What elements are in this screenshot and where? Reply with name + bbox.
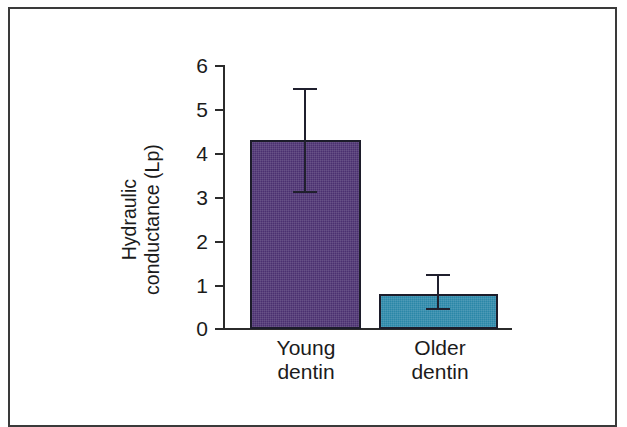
- y-tick-label-3: 3: [182, 187, 208, 208]
- y-tick-label-wrap-0: 0: [178, 318, 208, 319]
- y-tick-label-wrap-4: 4: [178, 143, 208, 144]
- y-tick-0: [215, 328, 224, 330]
- y-tick-label-wrap-5: 5: [178, 99, 208, 100]
- error-bar-cap-top-older-dentin: [426, 274, 450, 276]
- category-label-young-dentin: Young dentin: [238, 336, 374, 383]
- error-bar-cap-bottom-young-dentin: [293, 191, 317, 193]
- error-bar-stem-young-dentin: [304, 88, 306, 193]
- figure-frame: 6 5 4 3 2 1 0 Hydraulic conductance (Lp): [8, 7, 617, 427]
- y-tick-label-0: 0: [182, 318, 208, 339]
- y-tick-label-6: 6: [182, 55, 208, 76]
- y-tick-5: [215, 109, 224, 111]
- y-tick-label-wrap-2: 2: [178, 231, 208, 232]
- error-bar-cap-top-young-dentin: [293, 88, 317, 90]
- category-label-older-dentin: Older dentin: [372, 336, 508, 383]
- y-tick-2: [215, 241, 224, 243]
- y-tick-label-1: 1: [182, 275, 208, 296]
- y-tick-label-wrap-6: 6: [178, 55, 208, 56]
- error-bar-cap-bottom-older-dentin: [426, 308, 450, 310]
- plot-area: 6 5 4 3 2 1 0 Hydraulic conductance (Lp): [10, 9, 619, 421]
- y-tick-4: [215, 153, 224, 155]
- y-tick-label-wrap-1: 1: [178, 275, 208, 276]
- y-axis-title: Hydraulic conductance (Lp): [118, 80, 163, 360]
- y-tick-label-5: 5: [182, 99, 208, 120]
- y-tick-label-4: 4: [182, 143, 208, 164]
- y-tick-label-wrap-3: 3: [178, 187, 208, 188]
- y-tick-1: [215, 285, 224, 287]
- y-tick-6: [215, 65, 224, 67]
- y-tick-3: [215, 197, 224, 199]
- y-tick-label-2: 2: [182, 231, 208, 252]
- error-bar-stem-older-dentin: [437, 274, 439, 310]
